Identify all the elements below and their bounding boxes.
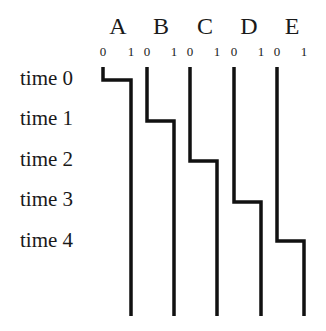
step-line-c — [190, 67, 217, 316]
step-line-d — [234, 67, 261, 316]
step-line-b — [147, 67, 174, 316]
step-line-e — [277, 67, 304, 316]
step-line-a — [103, 67, 131, 316]
step-lines — [0, 0, 326, 331]
